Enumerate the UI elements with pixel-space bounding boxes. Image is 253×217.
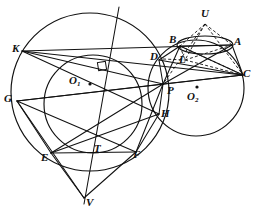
label-O2-subscript: 2 <box>195 96 199 104</box>
label-C: C <box>243 68 250 79</box>
seg-V-line-up <box>84 7 119 204</box>
label-O2: O2 <box>187 91 198 102</box>
seg-E-V <box>51 153 84 198</box>
label-P: P <box>167 85 174 96</box>
label-H: H <box>161 108 170 119</box>
label-U: U <box>201 8 209 19</box>
seg-P-D <box>159 60 163 84</box>
label-K: K <box>12 43 19 54</box>
seg-K-C <box>22 51 243 75</box>
label-E: E <box>41 152 48 163</box>
circles-group <box>11 13 244 171</box>
dash-U-B <box>180 24 205 46</box>
dash-L-C <box>185 60 243 75</box>
label-G: G <box>4 93 12 104</box>
center-dot-O1 <box>88 82 91 85</box>
label-L: L <box>179 54 186 65</box>
label-A: A <box>234 36 241 47</box>
dash-U-C <box>205 24 243 75</box>
center-dot-O2 <box>195 85 198 88</box>
label-D: D <box>150 51 158 62</box>
label-O1-subscript: 1 <box>77 80 81 88</box>
geometry-canvas <box>0 0 253 217</box>
geometry-figure: KGETFVHPDLBAUCO1O2 <box>0 0 253 217</box>
label-B: B <box>169 34 176 45</box>
label-V: V <box>86 197 93 208</box>
seg-B-A <box>180 45 232 46</box>
seg-P-C <box>163 75 243 84</box>
seg-K-P <box>22 51 163 84</box>
label-O1: O1 <box>69 75 80 86</box>
label-T: T <box>94 143 101 154</box>
label-F: F <box>133 149 140 160</box>
